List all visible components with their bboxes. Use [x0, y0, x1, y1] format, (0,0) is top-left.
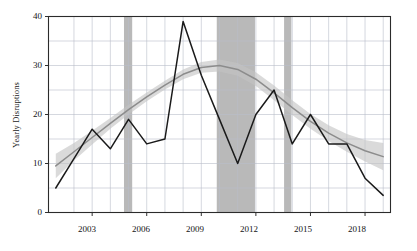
gridlines-group: [49, 17, 391, 213]
x-tick-label-2012: 2012: [229, 224, 269, 234]
y-tick-label-40: 40: [20, 11, 42, 21]
axis-ticks-group: [45, 17, 365, 217]
y-tick-label-20: 20: [20, 109, 42, 119]
plot-area: [0, 0, 417, 251]
x-tick-label-2009: 2009: [175, 224, 215, 234]
x-tick-label-2015: 2015: [283, 224, 323, 234]
y-tick-label-10: 10: [20, 158, 42, 168]
chart-figure: Yearly Disruptions 40 30 20 10 0 2003 20…: [0, 0, 417, 251]
x-tick-label-2006: 2006: [121, 224, 161, 234]
x-tick-label-2003: 2003: [67, 224, 107, 234]
y-tick-label-0: 0: [20, 207, 42, 217]
x-tick-label-2018: 2018: [337, 224, 377, 234]
y-tick-label-30: 30: [20, 60, 42, 70]
